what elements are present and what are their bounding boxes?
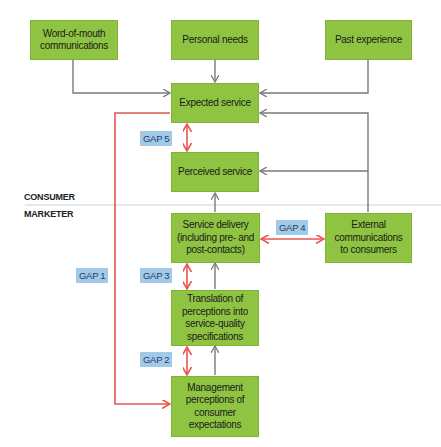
box-expected-service: Expected service — [171, 83, 259, 123]
box-management-perceptions: Management perceptions of consumer expec… — [171, 376, 259, 437]
arrow-past-to-expected — [260, 59, 368, 93]
box-past-experience: Past experience — [325, 20, 412, 60]
gap2-label: GAP 2 — [140, 352, 172, 367]
service-quality-gap-model: Word-of-mouth communications Personal ne… — [0, 0, 441, 447]
box-translation: Translation of perceptions into service-… — [171, 290, 259, 346]
box-word-of-mouth: Word-of-mouth communications — [30, 20, 118, 60]
box-personal-needs: Personal needs — [171, 20, 259, 60]
gap5-label: GAP 5 — [140, 131, 172, 146]
gap4-label: GAP 4 — [276, 220, 308, 235]
arrow-wom-to-expected — [73, 60, 170, 93]
box-external-communications: External communications to consumers — [325, 213, 412, 263]
box-perceived-service: Perceived service — [171, 152, 259, 192]
box-service-delivery: Service delivery (including pre- and pos… — [171, 213, 260, 263]
arrow-external-to-expected — [260, 113, 368, 212]
consumer-label: CONSUMER — [24, 192, 75, 202]
gap1-label: GAP 1 — [76, 268, 108, 283]
marketer-label: MARKETER — [24, 209, 73, 219]
gap3-label: GAP 3 — [140, 268, 172, 283]
